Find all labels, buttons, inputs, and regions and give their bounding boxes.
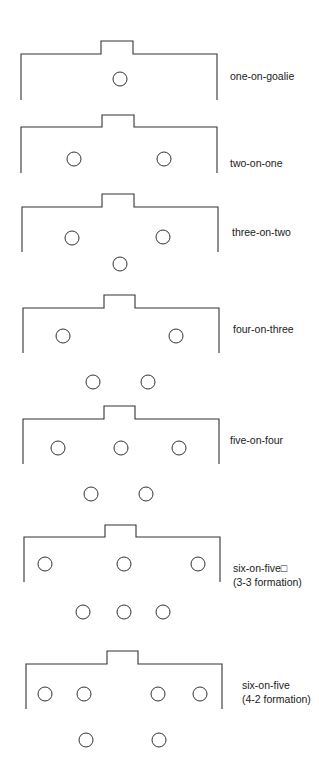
player-circle-icon (172, 441, 186, 455)
diagram-label-title: two-on-one (230, 156, 283, 170)
diagram-label: six-on-five□(3-3 formation) (233, 561, 302, 589)
diagram-canvas (0, 0, 319, 783)
player-circle-icon (65, 231, 79, 245)
player-circle-icon (141, 375, 155, 389)
play-diagram-1 (21, 41, 217, 100)
player-circle-icon (56, 329, 70, 343)
player-circle-icon (84, 487, 98, 501)
player-circle-icon (139, 487, 153, 501)
diagram-label-title: four-on-three (233, 322, 294, 336)
player-circle-icon (113, 72, 127, 86)
player-circle-icon (67, 152, 81, 166)
rink-zone-outline (21, 115, 217, 173)
player-circle-icon (117, 605, 131, 619)
diagram-label-subtitle: (4-2 formation) (242, 692, 311, 706)
player-circle-icon (151, 687, 165, 701)
player-circle-icon (157, 152, 171, 166)
diagram-label: five-on-four (230, 433, 283, 447)
player-circle-icon (38, 557, 52, 571)
play-diagram-7 (26, 651, 222, 747)
player-circle-icon (156, 605, 170, 619)
diagram-label-title: three-on-two (232, 225, 291, 239)
player-circle-icon (169, 329, 183, 343)
player-circle-icon (113, 257, 127, 271)
diagram-label-title: five-on-four (230, 433, 283, 447)
player-circle-icon (117, 557, 131, 571)
diagram-label-title: six-on-five□ (233, 561, 302, 575)
rink-zone-outline (22, 194, 218, 252)
diagram-label: three-on-two (232, 225, 291, 239)
rink-zone-outline (23, 295, 219, 353)
player-circle-icon (38, 687, 52, 701)
play-diagram-2 (21, 115, 217, 173)
diagram-label: one-on-goalie (230, 69, 294, 83)
player-circle-icon (77, 687, 91, 701)
play-diagram-3 (22, 194, 218, 271)
play-diagram-5 (23, 406, 219, 501)
player-circle-icon (193, 687, 207, 701)
play-diagram-6 (24, 525, 220, 619)
diagram-label: four-on-three (233, 322, 294, 336)
player-circle-icon (114, 441, 128, 455)
diagram-label-subtitle: (3-3 formation) (233, 575, 302, 589)
diagram-label: six-on-five(4-2 formation) (242, 678, 311, 706)
rink-zone-outline (24, 525, 220, 582)
player-circle-icon (156, 230, 170, 244)
player-circle-icon (79, 733, 93, 747)
diagram-label-title: six-on-five (242, 678, 311, 692)
diagram-label: two-on-one (230, 156, 283, 170)
player-circle-icon (76, 605, 90, 619)
player-circle-icon (86, 375, 100, 389)
play-diagram-4 (23, 295, 219, 389)
diagram-label-title: one-on-goalie (230, 69, 294, 83)
player-circle-icon (191, 557, 205, 571)
player-circle-icon (51, 441, 65, 455)
player-circle-icon (152, 733, 166, 747)
rink-zone-outline (26, 651, 222, 709)
rink-zone-outline (21, 41, 217, 100)
